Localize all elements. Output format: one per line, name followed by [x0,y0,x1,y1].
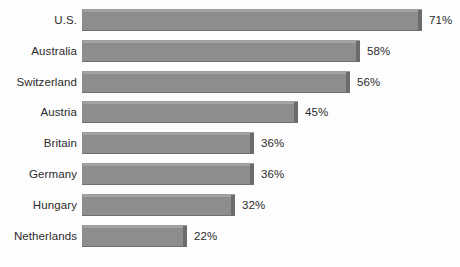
category-label: U.S. [0,8,77,32]
bar-container [82,39,360,63]
bar-container [82,193,235,217]
bar-container [82,131,254,155]
value-label: 71% [429,8,452,32]
bar [82,225,187,247]
bar-row: Hungary32% [0,193,460,217]
category-label: Britain [0,131,77,155]
bar [82,101,298,123]
value-label: 58% [367,39,390,63]
category-label: Hungary [0,193,77,217]
bar [82,163,254,185]
bar-chart: U.S.71%Australia58%Switzerland56%Austria… [0,0,460,267]
category-label: Australia [0,39,77,63]
bar-row: Britain36% [0,131,460,155]
bar-row: Switzerland56% [0,70,460,94]
bar-container [82,224,187,248]
value-label: 32% [242,193,265,217]
bar-container [82,100,298,124]
category-label: Netherlands [0,224,77,248]
bar [82,194,235,216]
bar-row: Austria45% [0,100,460,124]
bar-row: Australia58% [0,39,460,63]
value-label: 45% [305,100,328,124]
bar-row: Netherlands22% [0,224,460,248]
value-label: 22% [194,224,217,248]
bar [82,71,350,93]
category-label: Switzerland [0,70,77,94]
bar-container [82,70,350,94]
category-label: Austria [0,100,77,124]
category-label: Germany [0,162,77,186]
bar-container [82,162,254,186]
value-label: 56% [357,70,380,94]
bar [82,40,360,62]
bar-row: U.S.71% [0,8,460,32]
value-label: 36% [261,131,284,155]
bar-row: Germany36% [0,162,460,186]
bar-container [82,8,422,32]
bar [82,9,422,31]
bar [82,132,254,154]
value-label: 36% [261,162,284,186]
